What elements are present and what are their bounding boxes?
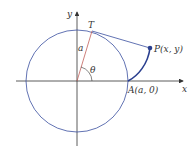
angle-label: θ — [90, 65, 96, 75]
tangent-line — [92, 31, 150, 48]
involute-diagram: y x T a θ P(x, y) A(a, 0) — [0, 0, 195, 151]
tangent-point-label: T — [88, 20, 95, 30]
point-p-label: P(x, y) — [153, 44, 183, 54]
radius-label: a — [78, 43, 83, 53]
y-axis-label: y — [66, 9, 73, 19]
involute-curve — [128, 48, 150, 81]
point-a-label: A(a, 0) — [127, 85, 159, 95]
point-p-dot — [148, 46, 153, 51]
x-axis-label: x — [182, 84, 187, 94]
